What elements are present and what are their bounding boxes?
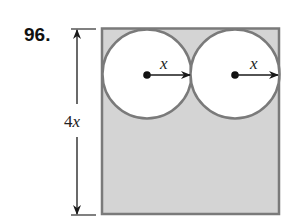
height-label-var: x — [72, 112, 81, 131]
geometry-figure: x x 4x — [0, 0, 292, 221]
left-radius-label: x — [159, 54, 168, 73]
right-radius-label: x — [249, 54, 258, 73]
height-label: 4x — [64, 112, 81, 131]
